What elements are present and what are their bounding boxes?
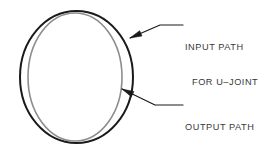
input-leader-arrowhead: [130, 31, 142, 38]
input-path-circle: [20, 11, 133, 143]
output-path-label-line1: OUTPUT PATH: [185, 122, 263, 134]
input-path-label-line1: INPUT PATH: [185, 42, 258, 54]
u-joint-path-diagram: INPUT PATH FOR U–JOINT OUTPUT PATH FOR U…: [0, 0, 270, 151]
input-path-label-line2: FOR U–JOINT: [185, 77, 258, 89]
output-path-ellipse: [28, 13, 122, 141]
output-path-label: OUTPUT PATH FOR U–JOINT (ELLIPITICAL): [185, 99, 263, 151]
input-path-label: INPUT PATH FOR U–JOINT: [185, 19, 258, 112]
